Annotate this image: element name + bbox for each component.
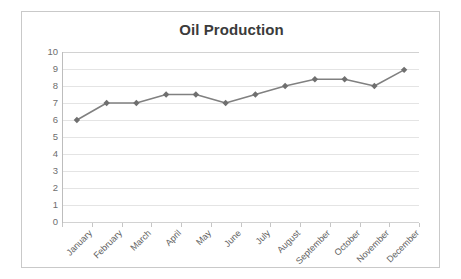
- data-point-august: [282, 83, 288, 89]
- y-axis-tick-labels: 012345678910: [30, 52, 58, 222]
- y-tick-label-0: 0: [36, 217, 58, 227]
- x-tick-8: [300, 223, 301, 227]
- data-point-november: [371, 83, 377, 89]
- y-tick-label-2: 2: [36, 183, 58, 193]
- y-tick-label-7: 7: [36, 98, 58, 108]
- x-tick-5: [211, 223, 212, 227]
- data-point-july: [252, 91, 258, 97]
- x-tick-label-may: May: [194, 228, 213, 247]
- data-point-april: [163, 91, 169, 97]
- y-tick-label-1: 1: [36, 200, 58, 210]
- x-tick-3: [151, 223, 152, 227]
- x-tick-label-july: July: [254, 228, 272, 246]
- y-tick-label-9: 9: [36, 64, 58, 74]
- y-tick-label-6: 6: [36, 115, 58, 125]
- x-tick-label-june: June: [222, 228, 243, 249]
- x-tick-label-march: March: [129, 228, 154, 253]
- y-tick-label-10: 10: [36, 47, 58, 57]
- x-tick-label-april: April: [163, 228, 183, 248]
- data-point-october: [341, 76, 347, 82]
- chart-container: Oil Production 012345678910 JanuaryFebru…: [21, 11, 440, 268]
- data-point-january: [74, 117, 80, 123]
- x-tick-label-january: January: [64, 228, 94, 258]
- data-point-june: [222, 100, 228, 106]
- data-point-march: [133, 100, 139, 106]
- x-tick-10: [360, 223, 361, 227]
- x-tick-2: [122, 223, 123, 227]
- x-tick-12: [419, 223, 420, 227]
- series-line-oil-production: [77, 70, 404, 120]
- x-tick-label-august: August: [275, 228, 302, 255]
- x-tick-11: [389, 223, 390, 227]
- x-tick-1: [92, 223, 93, 227]
- data-series-line: [62, 52, 419, 222]
- x-tick-9: [330, 223, 331, 227]
- y-tick-label-8: 8: [36, 81, 58, 91]
- x-axis-tick-labels: JanuaryFebruaryMarchAprilMayJuneJulyAugu…: [62, 228, 419, 272]
- y-tick-label-3: 3: [36, 166, 58, 176]
- data-point-december: [401, 67, 407, 73]
- x-tick-0: [62, 223, 63, 227]
- data-point-september: [312, 76, 318, 82]
- data-point-february: [103, 100, 109, 106]
- y-tick-label-5: 5: [36, 132, 58, 142]
- x-tick-4: [181, 223, 182, 227]
- x-tick-6: [241, 223, 242, 227]
- x-axis-ticks: [62, 223, 419, 227]
- x-tick-7: [270, 223, 271, 227]
- chart-title: Oil Production: [22, 21, 441, 38]
- y-tick-label-4: 4: [36, 149, 58, 159]
- data-point-may: [193, 91, 199, 97]
- x-tick-label-february: February: [91, 228, 124, 261]
